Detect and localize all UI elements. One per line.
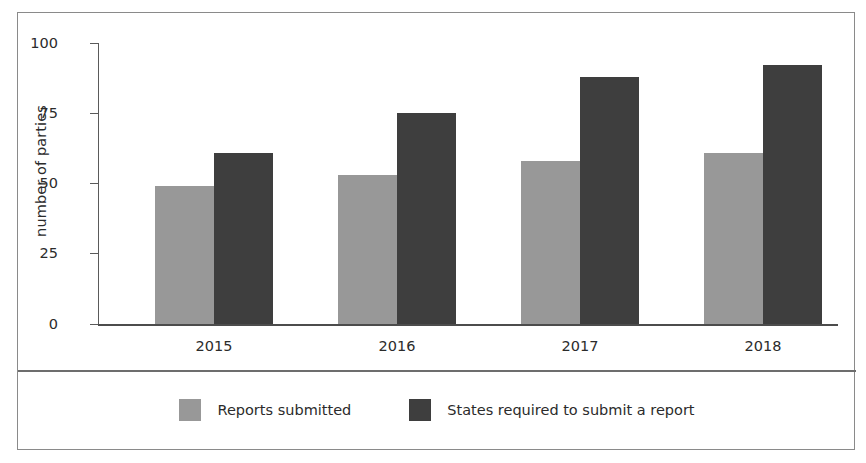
bar-2018-states-required	[763, 65, 822, 324]
bar-2017-states-required	[580, 77, 639, 324]
bar-2017-reports-submitted	[521, 161, 580, 324]
bar-2016-reports-submitted	[338, 175, 397, 324]
bar-2015-reports-submitted	[155, 186, 214, 324]
bars-layer	[18, 13, 856, 370]
plot-area: number of parties 0255075100 20152016201…	[18, 13, 856, 370]
bar-2018-reports-submitted	[704, 153, 763, 324]
x-axis-label-2017: 2017	[520, 338, 640, 354]
bar-2015-states-required	[214, 153, 273, 324]
x-axis-label-2018: 2018	[703, 338, 823, 354]
x-axis-label-2016: 2016	[337, 338, 457, 354]
legend-swatch-light	[179, 399, 201, 421]
chart-legend: Reports submitted States required to sub…	[18, 371, 856, 449]
legend-item-states-required: States required to submit a report	[409, 399, 694, 421]
bar-2016-states-required	[397, 113, 456, 324]
legend-label-states-required: States required to submit a report	[447, 402, 694, 418]
legend-label-reports-submitted: Reports submitted	[217, 402, 351, 418]
legend-item-reports-submitted: Reports submitted	[179, 399, 351, 421]
legend-swatch-dark	[409, 399, 431, 421]
chart-figure-frame: number of parties 0255075100 20152016201…	[17, 12, 855, 450]
x-axis-label-2015: 2015	[154, 338, 274, 354]
